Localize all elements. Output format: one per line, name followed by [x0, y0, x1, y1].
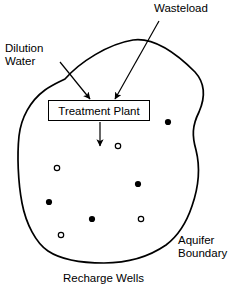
- aquifer-boundary-outline: [18, 40, 203, 263]
- dilution-water-label: Dilution Water: [5, 42, 43, 68]
- well-filled-4: [89, 216, 95, 222]
- well-open-4: [58, 232, 63, 237]
- well-open-1: [115, 143, 120, 148]
- recharge-wells-label: Recharge Wells: [63, 272, 144, 285]
- treatment-plant-box[interactable]: Treatment Plant: [48, 100, 150, 121]
- well-open-2: [54, 165, 59, 170]
- aquifer-boundary-label: Aquifer Boundary: [178, 234, 227, 260]
- well-filled-1: [165, 119, 171, 125]
- treatment-plant-label: Treatment Plant: [58, 105, 139, 117]
- well-filled-2: [135, 181, 141, 187]
- well-open-3: [138, 216, 143, 221]
- wasteload-label: Wasteload: [154, 2, 208, 15]
- well-filled-3: [46, 199, 52, 205]
